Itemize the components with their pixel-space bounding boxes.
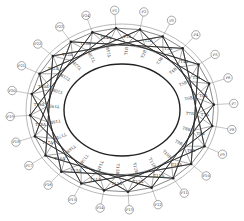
node-label: P8	[229, 128, 234, 132]
member-label-b: T24B	[105, 46, 112, 58]
node-point	[103, 189, 106, 192]
member-label-a: T5A	[192, 75, 200, 80]
node-label: P4	[193, 33, 198, 37]
node-label: P1	[112, 9, 117, 13]
member-label-a: T11A	[153, 173, 164, 178]
node-point	[60, 170, 63, 173]
radial-tie	[178, 48, 183, 67]
node-point	[208, 82, 211, 85]
ring-truss-diagram: P1P2P3P4P5P6P7P8P9P10P11P12P13P14P15P16P…	[0, 0, 244, 221]
node-label: P22	[34, 42, 41, 46]
node-label: P20	[9, 89, 17, 93]
node-point	[29, 114, 32, 117]
member-label-a: T1A	[123, 34, 131, 39]
node-point	[127, 191, 130, 194]
member-label-a: T4A	[180, 59, 188, 64]
node-point	[115, 27, 118, 30]
node-label: P7	[231, 102, 236, 106]
inner-ellipse	[64, 64, 180, 156]
member-label-b: T7B	[186, 111, 194, 116]
member-label-a: T9A	[187, 148, 195, 153]
node-point	[172, 177, 175, 180]
member-label-a: T20A	[38, 84, 49, 89]
node-label: P3	[169, 19, 174, 23]
member-label-a: T12A	[133, 179, 144, 184]
member-label-b: T3B	[155, 56, 164, 66]
member-label-a: T13A	[111, 181, 122, 186]
member-label-b: T5B	[178, 80, 188, 88]
member-label-b: T21B	[59, 73, 71, 83]
node-label: P5	[213, 53, 218, 57]
member-label-b: T18B	[50, 118, 61, 125]
member-label-b: T23B	[87, 51, 97, 63]
member-label-b: T12B	[132, 162, 139, 174]
node-label: P14	[97, 206, 105, 210]
member-label-a: T6A	[199, 93, 207, 98]
member-label-b: T17B	[55, 132, 67, 141]
member-label-a: T21A	[48, 66, 59, 71]
member-label-a: T7A	[201, 112, 209, 117]
node-label: P10	[203, 174, 211, 178]
member-label-a: T2A	[145, 38, 153, 43]
member-label-a: T10A	[171, 162, 182, 167]
member-label-a: T24A	[100, 35, 111, 40]
node-point	[139, 28, 142, 31]
node-point	[52, 55, 55, 58]
member-label-a: T16A	[54, 156, 65, 161]
node-point	[70, 41, 73, 44]
member-label-a: T3A	[164, 46, 172, 51]
node-point	[44, 154, 47, 157]
member-label-a: T22A	[62, 52, 73, 57]
radial-tie	[178, 64, 199, 67]
member-label-b: T14B	[96, 160, 105, 172]
node-label: P17	[25, 164, 33, 168]
node-label: P15	[69, 198, 77, 202]
member-label-a: T18A	[35, 122, 46, 127]
node-point	[211, 125, 214, 128]
member-label-b: T2B	[140, 49, 148, 58]
node-point	[34, 135, 37, 138]
member-label-a: T14A	[90, 177, 101, 182]
radial-tie	[195, 97, 214, 104]
member-label-b: T6B	[184, 95, 193, 101]
member-label-a: T23A	[80, 41, 91, 46]
node-label: P2	[141, 10, 146, 14]
member-label-b: T20B	[52, 87, 64, 95]
member-label-b: T4B	[168, 66, 178, 75]
node-label: P9	[220, 153, 225, 157]
member-label-b: T8B	[182, 125, 191, 132]
node-label: P21	[18, 64, 25, 68]
member-label-a: T17A	[42, 140, 53, 145]
node-label: P16	[45, 183, 53, 187]
node-point	[213, 103, 216, 106]
node-label: P6	[226, 76, 231, 80]
node-point	[181, 47, 184, 50]
member-label-a: T19A	[34, 102, 45, 107]
diagram-canvas: P1P2P3P4P5P6P7P8P9P10P11P12P13P14P15P16P…	[0, 0, 244, 221]
node-point	[161, 35, 164, 38]
member-label-b: T1B	[123, 47, 129, 56]
node-label: P11	[181, 191, 188, 195]
node-point	[190, 163, 193, 166]
node-point	[203, 145, 206, 148]
node-label: P19	[7, 115, 15, 119]
member-label-b: T19B	[49, 104, 60, 110]
member-label-b: T9B	[174, 138, 184, 146]
node-label: P12	[155, 203, 162, 207]
member-label-a: T8A	[197, 131, 205, 136]
node-point	[38, 72, 41, 75]
node-label: P13	[126, 208, 134, 212]
node-label: P23	[56, 25, 64, 29]
node-point	[30, 93, 33, 96]
node-point	[150, 186, 153, 189]
member-label-b: T11B	[148, 157, 158, 169]
outer-ring	[26, 24, 218, 196]
node-point	[80, 182, 83, 185]
node-label: P18	[12, 140, 20, 144]
node-point	[197, 63, 200, 66]
node-label: P24	[82, 14, 90, 18]
member-label-a: T15A	[71, 168, 82, 173]
node-point	[91, 31, 94, 34]
member-label-b: T13B	[115, 163, 121, 174]
